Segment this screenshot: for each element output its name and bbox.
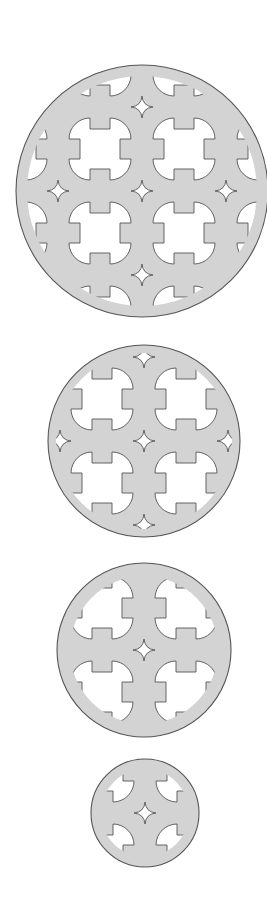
fretwork-diagram <box>0 0 267 909</box>
disk-small <box>57 563 231 737</box>
disk-medium <box>48 345 240 537</box>
